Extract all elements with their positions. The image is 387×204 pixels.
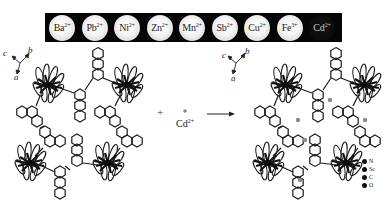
cd-ion-label: Cd2+ <box>176 118 194 129</box>
right-axis-c-label: c <box>222 50 226 60</box>
right-axis-a-label: a <box>231 73 236 83</box>
left-axis-triad-icon <box>12 53 29 74</box>
cd-ion-sphere-icon <box>183 109 187 113</box>
atom-sphere-icon <box>362 175 367 180</box>
left-framework <box>13 48 144 199</box>
atom-sphere-icon <box>362 183 367 188</box>
right-axis-b-label: b <box>245 46 250 56</box>
legend-item: Sc <box>362 165 376 173</box>
structure-diagram <box>0 0 387 204</box>
legend-label: C <box>369 173 373 181</box>
left-axis-b-label: b <box>28 45 33 55</box>
legend-label: O <box>369 181 373 189</box>
plus-sign: + <box>157 106 163 118</box>
left-axis-c-label: c <box>3 48 7 58</box>
legend-item: O <box>362 181 376 189</box>
legend-item: N <box>362 157 376 165</box>
left-axis-a-label: a <box>14 72 19 82</box>
atom-legend: N Sc C O <box>362 157 376 189</box>
legend-label: N <box>369 157 373 165</box>
reaction-arrow-icon <box>207 112 235 117</box>
right-axis-triad-icon <box>228 53 245 74</box>
atom-sphere-icon <box>362 159 367 164</box>
atom-sphere-icon <box>362 167 367 172</box>
legend-label: Sc <box>369 165 375 173</box>
legend-item: C <box>362 173 376 181</box>
